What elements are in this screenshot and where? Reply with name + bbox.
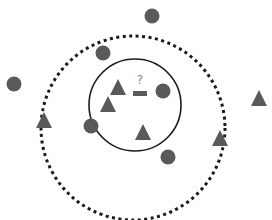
inner-neighborhood-circle: [89, 59, 181, 151]
circle-point: [161, 150, 176, 165]
query-label: ?: [137, 73, 143, 87]
triangle-point: [251, 90, 267, 106]
outer-neighborhood-circle: [41, 36, 225, 220]
circle-point: [156, 84, 171, 99]
circle-point: [96, 46, 111, 61]
circle-point: [7, 77, 22, 92]
triangle-point: [100, 96, 116, 112]
triangle-point: [212, 130, 228, 146]
class-triangle-points: [36, 79, 267, 146]
circle-point: [84, 119, 99, 134]
knn-diagram: ?: [0, 0, 272, 220]
triangle-point: [36, 112, 52, 128]
triangle-point: [135, 124, 151, 140]
query-point: [133, 91, 147, 96]
triangle-point: [110, 79, 126, 95]
class-circle-points: [7, 9, 176, 165]
circle-point: [145, 9, 160, 24]
